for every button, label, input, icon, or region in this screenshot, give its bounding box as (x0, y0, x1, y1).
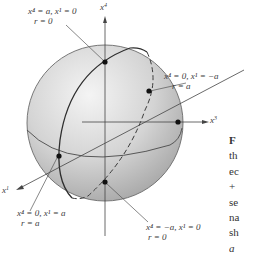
caption-line: sh (229, 225, 259, 240)
point-top (102, 59, 107, 64)
label-back-point: x⁴ = 0, x¹ = −a r = a (164, 71, 219, 91)
label-top-point: x⁴ = a, x¹ = 0 r = 0 (28, 6, 76, 26)
x4-arrowhead-icon (103, 16, 107, 23)
label-front-point: x⁴ = 0, x¹ = a r = a (17, 208, 65, 228)
x3-arrowhead-icon (202, 120, 209, 124)
point-bottom (102, 179, 107, 184)
x1-axis-label: x1 (2, 185, 9, 195)
caption-line: th (229, 148, 259, 163)
figure-caption-fragment: F th ec + se na sh a (229, 133, 259, 256)
caption-line: a (229, 241, 259, 256)
x3-axis-label: x3 (210, 115, 217, 125)
caption-line: se (229, 195, 259, 210)
caption-line: F (229, 133, 259, 148)
caption-line: na (229, 210, 259, 225)
point-front (56, 153, 61, 158)
caption-line: ec (229, 164, 259, 179)
point-x3 (175, 119, 180, 124)
point-back (146, 88, 151, 93)
x4-axis-label: x4 (100, 2, 107, 12)
caption-line: + (229, 179, 259, 194)
label-bottom-point: x⁴ = −a, x¹ = 0 r = 0 (146, 222, 201, 242)
x1-arrowhead-icon (16, 185, 24, 190)
